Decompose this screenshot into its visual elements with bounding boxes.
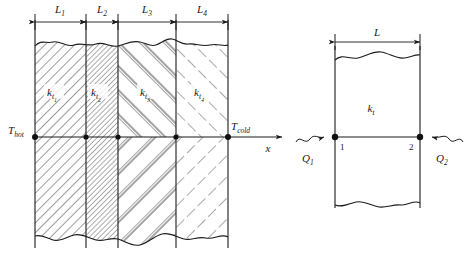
right-dimension-label-L: L [373, 26, 380, 38]
dimension-label-L2: L2 [96, 3, 107, 18]
heat-flow-arrow-left [296, 136, 324, 142]
heat-flow-label-Q1: Q1 [302, 152, 314, 167]
right-element-group: L kt 1 2 Q1 Q2 [296, 26, 463, 208]
right-node-dot-2 [417, 134, 423, 140]
temperature-label-hot: Thot [8, 124, 25, 139]
right-node-label-1: 1 [340, 142, 345, 152]
node-dot-2 [115, 134, 120, 139]
left-composite-wall-group: L1 L2 L3 L4 kt1 kt2 [8, 3, 282, 248]
heat-flow-arrow-right [432, 136, 463, 142]
right-node-dot-1 [332, 134, 338, 140]
dimension-label-L3: L3 [141, 3, 152, 18]
dimension-label-L1: L1 [54, 3, 65, 18]
layer-4-hatch-lower [176, 137, 228, 248]
right-slab-bottom-break-line [335, 202, 420, 208]
layer-hatch-fills [35, 36, 228, 248]
right-conductivity-label: kt [368, 102, 376, 117]
layer-2-hatch [86, 36, 118, 248]
heat-flow-label-Q2: Q2 [436, 152, 448, 167]
figure-canvas: L1 L2 L3 L4 kt1 kt2 [0, 0, 474, 266]
temperature-label-cold: Tcold [231, 120, 250, 135]
node-dot-cold [225, 134, 231, 140]
dimension-label-L4: L4 [196, 3, 207, 18]
thermal-conduction-figure: L1 L2 L3 L4 kt1 kt2 [0, 0, 474, 266]
layer-1-hatch [35, 36, 86, 248]
layer-3-hatch-lower [118, 137, 176, 248]
x-axis-label: x [265, 142, 271, 154]
right-slab-top-break-line [335, 52, 420, 60]
right-node-label-2: 2 [409, 142, 414, 152]
node-dot-hot [32, 134, 38, 140]
node-dot-3 [173, 134, 178, 139]
node-dot-1 [83, 134, 88, 139]
